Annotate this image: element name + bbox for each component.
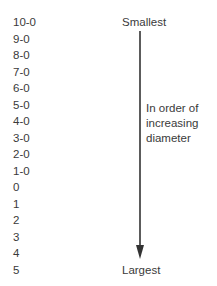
size-item: 4-0 (13, 113, 36, 130)
size-item: 1 (13, 196, 36, 213)
size-item: 2 (13, 212, 36, 229)
size-item: 4 (13, 245, 36, 262)
size-item: 2-0 (13, 146, 36, 163)
size-item: 3 (13, 229, 36, 246)
size-item: 1-0 (13, 163, 36, 180)
down-arrow-icon (134, 31, 146, 261)
smallest-label: Smallest (122, 14, 166, 30)
size-item: 6-0 (13, 80, 36, 97)
size-item: 0 (13, 179, 36, 196)
size-item: 7-0 (13, 64, 36, 81)
size-item: 10-0 (13, 14, 36, 31)
size-item: 5-0 (13, 97, 36, 114)
largest-label: Largest (122, 262, 160, 278)
size-item: 3-0 (13, 130, 36, 147)
size-item: 5 (13, 262, 36, 279)
size-list: 10-0 9-0 8-0 7-0 6-0 5-0 4-0 3-0 2-0 1-0… (13, 14, 36, 278)
order-note: In order of increasing diameter (146, 101, 198, 146)
note-line-2: increasing (146, 116, 198, 131)
note-line-3: diameter (146, 131, 198, 146)
size-item: 8-0 (13, 47, 36, 64)
note-line-1: In order of (146, 101, 198, 116)
size-item: 9-0 (13, 31, 36, 48)
